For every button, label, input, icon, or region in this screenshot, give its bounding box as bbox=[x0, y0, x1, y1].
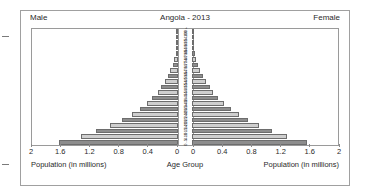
age-group-label: 100 + bbox=[184, 27, 189, 37]
bar-row bbox=[32, 123, 178, 129]
bar-row bbox=[192, 79, 338, 85]
bar-row bbox=[192, 40, 338, 46]
population-pyramid-figure: Male Angola - 2013 Female 0 - 45 - 910 -… bbox=[0, 0, 368, 195]
bar-row bbox=[192, 57, 338, 63]
female-bar bbox=[192, 90, 213, 95]
female-axis-caption: Population (in millions) bbox=[264, 160, 339, 170]
female-bar bbox=[192, 129, 272, 134]
axis-tick-mark bbox=[118, 144, 119, 147]
chart-title: Angola - 2013 bbox=[22, 13, 348, 23]
bar-row bbox=[192, 62, 338, 68]
bar-row bbox=[192, 106, 338, 112]
bar-row bbox=[32, 34, 178, 40]
bar-row bbox=[192, 68, 338, 74]
bar-row bbox=[32, 90, 178, 96]
bar-row bbox=[192, 29, 338, 35]
bar-row bbox=[32, 62, 178, 68]
bar-row bbox=[32, 128, 178, 134]
male-bar bbox=[110, 123, 178, 128]
bar-row bbox=[32, 51, 178, 57]
male-bar bbox=[165, 79, 178, 84]
male-bar bbox=[147, 101, 178, 106]
axis-tick-mark bbox=[147, 144, 148, 147]
female-axis-tick-label: 1.2 bbox=[275, 147, 285, 156]
female-axis-tick-label: 0.4 bbox=[217, 147, 227, 156]
male-bar bbox=[168, 74, 178, 79]
bar-row bbox=[192, 84, 338, 90]
bar-row bbox=[192, 34, 338, 40]
male-axis-tick-label: 0.8 bbox=[113, 147, 123, 156]
female-axis-tick-label: 0 bbox=[191, 147, 195, 156]
male-axis-tick-label: 0.4 bbox=[143, 147, 153, 156]
edge-tick-mark-bottom bbox=[2, 164, 9, 165]
male-bar bbox=[122, 118, 178, 123]
female-bar bbox=[192, 46, 194, 51]
axis-tick-mark bbox=[222, 144, 223, 147]
female-bar bbox=[192, 35, 194, 40]
female-bar bbox=[192, 140, 307, 145]
male-panel bbox=[32, 29, 178, 145]
bar-row bbox=[192, 73, 338, 79]
axis-tick-mark bbox=[60, 144, 61, 147]
chart-header: Male Angola - 2013 Female bbox=[22, 12, 348, 26]
female-bar bbox=[192, 101, 224, 106]
female-axis-tick-label: 1.6 bbox=[305, 147, 315, 156]
axis-captions: Population (in millions) Age Group Popul… bbox=[22, 160, 348, 172]
bar-row bbox=[192, 128, 338, 134]
bar-row bbox=[32, 68, 178, 74]
bar-row bbox=[192, 117, 338, 123]
axis-tick-mark bbox=[31, 144, 32, 147]
male-bar bbox=[140, 107, 178, 112]
male-axis-tick-label: 2 bbox=[29, 147, 33, 156]
bar-row bbox=[192, 51, 338, 57]
axis-tick-mark bbox=[339, 144, 340, 147]
female-bar bbox=[192, 134, 287, 139]
male-axis-tick-label: 1.2 bbox=[84, 147, 94, 156]
female-bar bbox=[192, 112, 239, 117]
axis-tick-mark bbox=[193, 144, 194, 147]
bar-row bbox=[32, 139, 178, 145]
bar-row bbox=[32, 134, 178, 140]
axis-tick-mark bbox=[251, 144, 252, 147]
bar-row bbox=[32, 95, 178, 101]
bar-row bbox=[32, 106, 178, 112]
female-bar bbox=[192, 74, 203, 79]
axis-tick-mark bbox=[280, 144, 281, 147]
axis-tick-mark bbox=[89, 144, 90, 147]
bar-row bbox=[32, 57, 178, 63]
female-axis-tick-label: 2 bbox=[337, 147, 341, 156]
female-bar bbox=[192, 107, 231, 112]
bar-row bbox=[32, 73, 178, 79]
male-bar bbox=[158, 90, 178, 95]
female-bar-rows bbox=[192, 29, 338, 145]
bar-row bbox=[192, 139, 338, 145]
male-bar bbox=[81, 134, 178, 139]
axis-tick-mark bbox=[309, 144, 310, 147]
female-bar bbox=[192, 57, 196, 62]
bar-row bbox=[32, 112, 178, 118]
female-bar bbox=[192, 68, 200, 73]
bar-row bbox=[192, 90, 338, 96]
female-bar bbox=[192, 40, 194, 45]
male-axis-ticks: 21.61.20.80.40 bbox=[31, 147, 177, 157]
male-axis-tick-label: 0 bbox=[175, 147, 179, 156]
male-axis-tick-label: 1.6 bbox=[55, 147, 65, 156]
male-bar bbox=[170, 68, 178, 73]
female-bar bbox=[192, 123, 259, 128]
female-bar bbox=[192, 85, 210, 90]
bar-row bbox=[32, 45, 178, 51]
bar-row bbox=[192, 45, 338, 51]
bar-row bbox=[32, 29, 178, 35]
age-group-label-row: 100 + bbox=[179, 29, 193, 35]
female-axis-tick-label: 0.8 bbox=[246, 147, 256, 156]
age-group-labels: 0 - 45 - 910 - 1415 - 1920 - 2425 - 2930… bbox=[179, 29, 193, 145]
female-bar bbox=[192, 63, 198, 68]
male-bar-rows bbox=[32, 29, 178, 145]
female-panel bbox=[192, 29, 338, 145]
female-bar bbox=[192, 118, 248, 123]
bar-row bbox=[32, 84, 178, 90]
female-bar bbox=[192, 51, 195, 56]
bar-row bbox=[192, 123, 338, 129]
axis-tick-mark bbox=[177, 144, 178, 147]
male-bar bbox=[96, 129, 178, 134]
